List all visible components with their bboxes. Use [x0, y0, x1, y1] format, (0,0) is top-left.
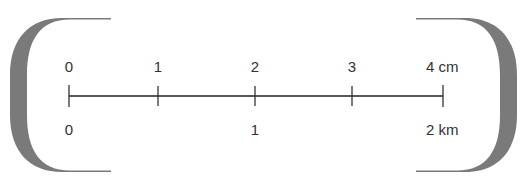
- top-label-0: 0: [65, 59, 73, 74]
- top-label-2: 2: [251, 59, 259, 74]
- right-bracket: [416, 18, 517, 172]
- bottom-label-0: 0: [65, 122, 73, 137]
- scale-bar-graphic: [0, 0, 527, 191]
- left-bracket: [10, 18, 111, 172]
- top-label-1: 1: [154, 59, 162, 74]
- top-label-4cm: 4 cm: [426, 59, 459, 74]
- scale-diagram: 0 1 2 3 4 cm 0 1 2 km: [0, 0, 527, 191]
- top-label-3: 3: [348, 59, 356, 74]
- bottom-label-2km: 2 km: [426, 122, 459, 137]
- bottom-label-1: 1: [251, 122, 259, 137]
